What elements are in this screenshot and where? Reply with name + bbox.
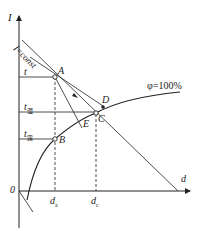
t-label: t: [24, 67, 27, 77]
t-wet-sub: 湿: [27, 108, 33, 114]
dc-label: dc: [91, 196, 99, 208]
t-dew-sub: 露: [27, 135, 33, 141]
y-axis-label: I: [8, 12, 12, 23]
origin-label: 0: [10, 185, 15, 195]
t-wet-label: t湿: [24, 102, 33, 114]
t-dew-label: t露: [24, 129, 33, 141]
da-sub: a: [55, 202, 58, 208]
point-d-marker: [101, 105, 105, 109]
dc-sub: c: [96, 202, 99, 208]
point-a-marker: [53, 75, 57, 79]
x-axis-label: d: [181, 174, 186, 184]
point-c-label: C: [98, 114, 105, 124]
da-label: da: [50, 196, 58, 208]
point-b-label: B: [59, 135, 65, 145]
point-d-label: D: [102, 95, 109, 105]
saturation-curve-label: φ=100%: [147, 81, 182, 91]
point-b-marker: [53, 137, 57, 141]
point-e-label: E: [83, 119, 89, 129]
point-a-label: A: [58, 66, 64, 76]
t-label-main: t: [24, 66, 27, 77]
origin-tick: [19, 191, 33, 212]
